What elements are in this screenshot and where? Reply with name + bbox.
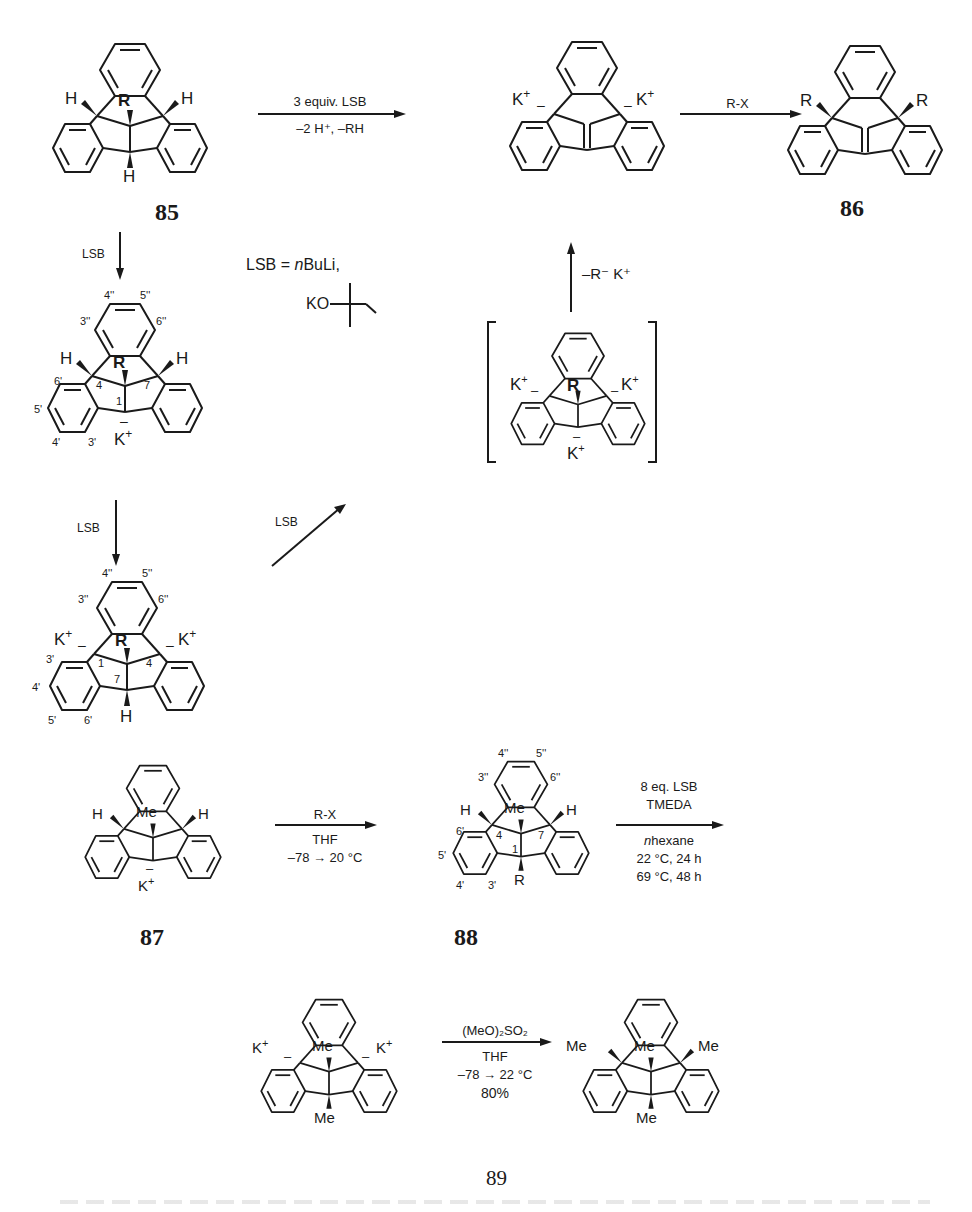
potassium-cation-left: K+ <box>512 88 530 108</box>
compound-label-86: 86 <box>840 196 864 220</box>
compound-89-structure: Me Me Me Me <box>576 996 726 1136</box>
position-5p: 5' <box>438 850 446 861</box>
arrow8-condition-2: 69 °C, 48 h <box>614 868 724 886</box>
arrow6-byproduct: –R⁻ K⁺ <box>582 264 631 284</box>
reaction-arrow-3 <box>115 232 125 282</box>
arrow8-solvent: nhexane <box>614 832 724 850</box>
position-4pp: 4'' <box>102 568 112 579</box>
position-3pp: 3'' <box>478 772 488 783</box>
position-3pp: 3'' <box>80 316 90 327</box>
compound-87-structure: Me H H – K+ <box>78 762 228 902</box>
dianion-structure: R K+ – – K+ H 4'' 5'' 3'' 6'' 3' 4' 5' 6… <box>42 578 212 738</box>
arrow1-reagent: 3 equiv. LSB <box>260 93 400 111</box>
arrowhead-icon <box>712 821 724 829</box>
potassium-cation: K+ <box>138 876 154 893</box>
h-atom-right: H <box>181 90 193 107</box>
center-substituent: R <box>118 92 130 109</box>
position-5p: 5' <box>34 404 42 415</box>
carbanion-charge-left: – <box>537 98 545 112</box>
r-substituent-bottom: R <box>514 872 525 887</box>
arrow8-condition-1: 22 °C, 24 h <box>614 850 724 868</box>
h-atom-right: H <box>176 350 188 367</box>
h-atom-left: H <box>92 806 103 821</box>
arrow4-reagent: LSB <box>77 520 100 536</box>
compound-88-structure: Me H H R 4'' 5'' 3'' 6'' 6' 5' 4' 3' 4 7… <box>446 758 596 908</box>
arrow9-reagent: (MeO)₂SO₂ <box>440 1022 550 1040</box>
position-6pp: 6'' <box>158 594 168 605</box>
center-substituent: Me <box>634 1038 655 1053</box>
arrowhead-icon <box>394 110 406 118</box>
h-atom-bottom: H <box>123 168 135 185</box>
position-3p: 3' <box>88 437 96 448</box>
reaction-arrow-5 <box>270 500 350 570</box>
center-substituent: R <box>115 632 127 649</box>
position-4p: 4' <box>52 437 60 448</box>
compound-label-85: 85 <box>155 200 179 224</box>
position-c4: 4 <box>96 380 102 391</box>
arrow3-reagent: LSB <box>82 246 105 262</box>
compound-label-89: 89 <box>486 1168 507 1189</box>
r-substituent-left: R <box>800 92 812 109</box>
compound-label-87: 87 <box>140 925 164 949</box>
dipotassium-dianion-structure: K+ – – K+ <box>502 38 672 188</box>
tert-amyl-skeleton <box>330 283 380 333</box>
h-atom-right: H <box>566 802 577 817</box>
arrow9-temperature: –78 → 22 °C <box>440 1066 550 1084</box>
compound-86-structure: R R <box>780 42 950 192</box>
reaction-arrow-6 <box>566 240 576 314</box>
reaction-arrow-9 <box>442 1041 542 1043</box>
position-c4: 4 <box>146 658 152 669</box>
carbanion-charge-right: – <box>362 1050 369 1063</box>
h-atom-left: H <box>460 802 471 817</box>
arrow7-solvent: THF <box>275 831 375 849</box>
carbanion-charge-right: – <box>624 98 632 112</box>
position-6p: 6' <box>84 715 92 726</box>
position-3p: 3' <box>46 654 54 665</box>
reaction-arrow-1 <box>258 113 396 115</box>
carbanion-charge-left: – <box>78 638 86 652</box>
center-substituent: R <box>567 377 579 394</box>
position-5pp: 5'' <box>142 568 152 579</box>
potassium-cation-right: K+ <box>621 374 639 393</box>
position-4pp: 4'' <box>104 290 114 301</box>
methyl-dianion-structure: Me K+ – – K+ Me <box>254 996 404 1136</box>
position-6pp: 6'' <box>550 772 560 783</box>
potassium-cation-right: K+ <box>376 1038 392 1055</box>
potassium-cation-bottom: K+ <box>567 443 585 462</box>
potassium-cation: K+ <box>114 428 132 448</box>
position-6p: 6' <box>54 376 62 387</box>
arrow7-temperature: –78 → 20 °C <box>265 849 385 867</box>
position-c1: 1 <box>512 844 518 855</box>
carbanion-charge-left: – <box>531 384 538 397</box>
h-atom-right: H <box>198 806 209 821</box>
position-4pp: 4'' <box>498 748 508 759</box>
position-3pp: 3'' <box>78 594 88 605</box>
arrowhead-icon <box>365 821 377 829</box>
position-3p: 3' <box>488 880 496 891</box>
r-substituent-right: R <box>916 92 928 109</box>
potassium-cation-left: K+ <box>252 1038 268 1055</box>
position-5p: 5' <box>48 715 56 726</box>
position-c7: 7 <box>144 380 150 391</box>
position-4p: 4' <box>32 682 40 693</box>
reaction-arrow-4 <box>111 500 121 570</box>
carbanion-charge-right: – <box>611 384 618 397</box>
center-substituent: Me <box>312 1038 333 1053</box>
position-6p: 6' <box>456 826 464 837</box>
carbanion-charge-left: – <box>284 1050 291 1063</box>
position-4p: 4' <box>456 880 464 891</box>
potassium-cation-right: K+ <box>636 88 654 108</box>
arrowhead-icon <box>540 1038 552 1046</box>
arrow7-reagent: R-X <box>275 806 375 824</box>
arrow2-reagent: R-X <box>680 95 795 113</box>
compound-label-88: 88 <box>454 925 478 949</box>
potassium-alkoxide-label: KO <box>306 296 329 312</box>
position-6pp: 6'' <box>156 316 166 327</box>
position-c1: 1 <box>116 396 122 407</box>
methyl-substituent-right: Me <box>698 1038 719 1053</box>
potassium-cation-right: K+ <box>178 628 196 648</box>
monoanion-structure: R H H – K+ 4'' 5'' 3'' 6'' 6' 5' 4' 3' 4… <box>40 300 210 460</box>
carbanion-charge: – <box>146 862 153 875</box>
compound-85-structure: R H H H <box>45 40 215 190</box>
figure-caption-truncated <box>60 1200 930 1204</box>
